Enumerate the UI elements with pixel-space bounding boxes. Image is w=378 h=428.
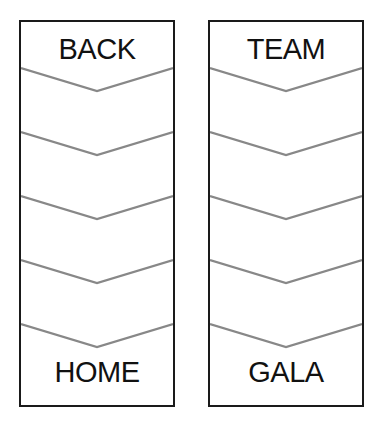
label-team: TEAM <box>210 33 362 66</box>
chevron-arrows-icon <box>210 22 362 405</box>
column-left: BACK HOME <box>19 20 175 407</box>
chevron-arrows-icon <box>21 22 173 405</box>
column-right: TEAM GALA <box>208 20 364 407</box>
label-home: HOME <box>21 356 173 389</box>
label-gala: GALA <box>210 356 362 389</box>
label-back: BACK <box>21 33 173 66</box>
